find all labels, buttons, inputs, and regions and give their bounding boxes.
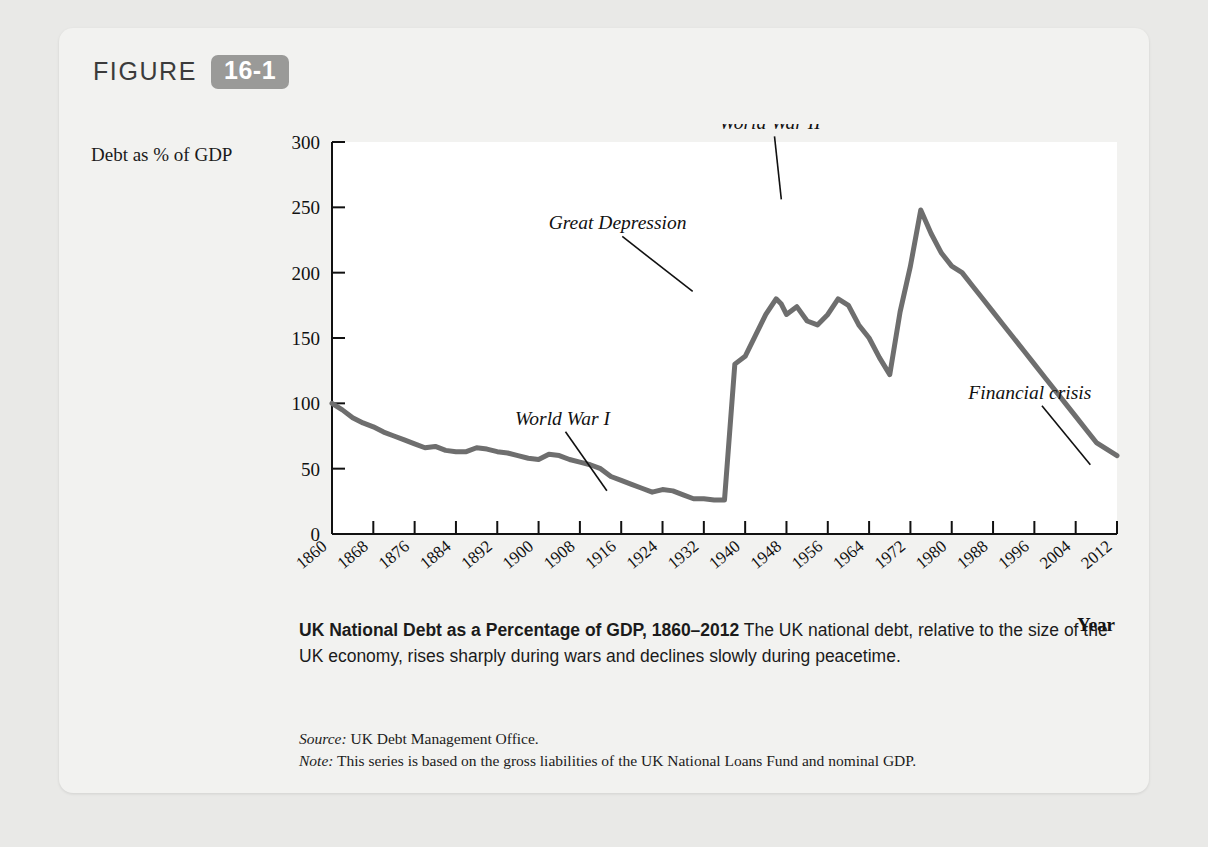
x-tick-label: 1972 — [871, 537, 909, 573]
y-tick-label: 150 — [292, 328, 321, 349]
source-note-block: Source: UK Debt Management Office. Note:… — [299, 728, 1129, 772]
x-tick-label: 1900 — [499, 537, 537, 573]
x-tick-label: 2012 — [1077, 537, 1115, 573]
annotation-label: Financial crisis — [967, 382, 1091, 403]
figure-word-label: FIGURE — [93, 57, 197, 86]
debt-line-chart: 0501001502002503001860186818761884189219… — [59, 124, 1149, 644]
caption-title: UK National Debt as a Percentage of GDP,… — [299, 620, 739, 640]
note-line: Note: This series is based on the gross … — [299, 750, 1129, 772]
source-label: Source: — [299, 730, 347, 747]
x-tick-label: 1876 — [375, 537, 413, 573]
x-tick-label: 1932 — [664, 537, 702, 573]
x-tick-label: 1860 — [292, 537, 330, 573]
y-tick-label: 250 — [292, 197, 321, 218]
figure-card: FIGURE 16-1 Debt as % of GDP 05010015020… — [59, 28, 1149, 793]
x-tick-label: 1924 — [623, 536, 662, 573]
x-tick-label: 1892 — [458, 537, 496, 573]
y-tick-label: 50 — [301, 459, 320, 480]
annotation-leader-line — [775, 136, 782, 199]
x-tick-label: 1980 — [912, 537, 950, 573]
annotation-label: World War I — [515, 408, 612, 429]
figure-number-badge: 16-1 — [211, 55, 289, 89]
y-tick-label: 300 — [292, 132, 321, 153]
x-tick-label: 2004 — [1036, 536, 1075, 573]
x-tick-label: 1868 — [334, 537, 372, 573]
figure-header: FIGURE 16-1 — [93, 55, 289, 89]
annotation-label: Great Depression — [549, 212, 687, 233]
chart-block: Debt as % of GDP 05010015020025030018601… — [59, 124, 1149, 644]
x-tick-label: 1916 — [582, 537, 620, 573]
annotation-label: World War II — [719, 124, 822, 133]
y-tick-label: 100 — [292, 393, 321, 414]
x-tick-label: 1964 — [829, 536, 868, 573]
annotation-leader-line — [622, 236, 692, 291]
data-series-line — [332, 210, 1117, 500]
note-text: This series is based on the gross liabil… — [337, 752, 916, 769]
x-tick-label: 1996 — [995, 537, 1033, 573]
annotation-leader-line — [1042, 406, 1090, 465]
source-text: UK Debt Management Office. — [351, 730, 539, 747]
x-tick-label: 1988 — [953, 537, 991, 573]
source-line: Source: UK Debt Management Office. — [299, 728, 1129, 750]
note-label: Note: — [299, 752, 333, 769]
x-tick-label: 1884 — [416, 536, 455, 573]
x-tick-label: 1908 — [540, 537, 578, 573]
x-tick-label: 1956 — [788, 537, 826, 573]
x-tick-label: 1940 — [705, 537, 743, 573]
y-tick-label: 200 — [292, 263, 321, 284]
figure-caption: UK National Debt as a Percentage of GDP,… — [299, 618, 1109, 669]
x-tick-label: 1948 — [747, 537, 785, 573]
